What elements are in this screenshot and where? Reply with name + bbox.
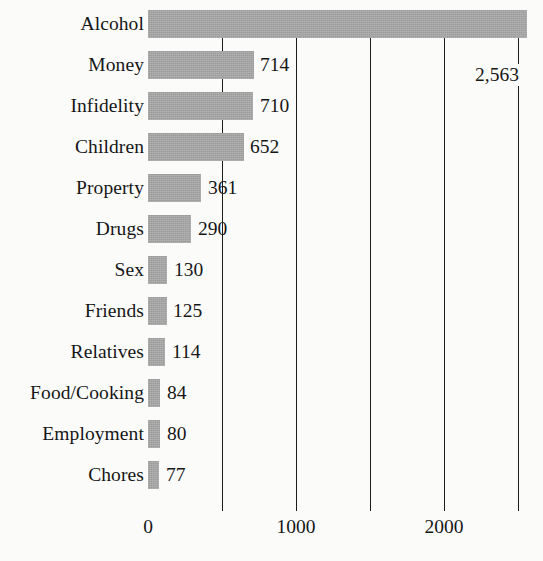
value-label-friends: 125 xyxy=(173,300,202,322)
category-label-employment: Employment xyxy=(42,423,144,445)
x-tick-label-0: 0 xyxy=(143,516,153,538)
category-label-sex: Sex xyxy=(114,259,144,281)
value-label-relatives: 114 xyxy=(172,341,201,363)
bar-chores[interactable] xyxy=(148,461,159,489)
x-tick-label-1000: 1000 xyxy=(277,516,316,538)
value-label-food-cooking: 84 xyxy=(167,382,187,404)
bar-row-sex: Sex 130 xyxy=(0,249,543,290)
category-label-infidelity: Infidelity xyxy=(70,95,144,117)
bar-row-employment: Employment 80 xyxy=(0,413,543,454)
bar-row-friends: Friends 125 xyxy=(0,290,543,331)
bar-row-drugs: Drugs 290 xyxy=(0,208,543,249)
bar-row-money: Money 714 xyxy=(0,44,543,85)
category-label-chores: Chores xyxy=(88,464,144,486)
category-label-relatives: Relatives xyxy=(71,341,144,363)
x-tick-label-2000: 2000 xyxy=(425,516,464,538)
category-label-money: Money xyxy=(88,54,144,76)
category-label-friends: Friends xyxy=(85,300,144,322)
value-label-children: 652 xyxy=(250,136,279,158)
value-label-employment: 80 xyxy=(167,423,187,445)
bar-row-children: Children 652 xyxy=(0,126,543,167)
value-label-alcohol: 2,563 xyxy=(474,64,520,86)
category-label-food-cooking: Food/Cooking xyxy=(30,382,144,404)
bar-sex[interactable] xyxy=(148,256,167,284)
value-label-chores: 77 xyxy=(166,464,186,486)
bar-friends[interactable] xyxy=(148,297,167,325)
x-axis-tick-labels: 0 1000 2000 xyxy=(0,516,543,556)
category-label-alcohol: Alcohol xyxy=(80,13,144,35)
bar-alcohol[interactable] xyxy=(148,10,527,38)
bar-property[interactable] xyxy=(148,174,201,202)
category-label-property: Property xyxy=(76,177,144,199)
bar-row-relatives: Relatives 114 xyxy=(0,331,543,372)
value-label-property: 361 xyxy=(208,177,237,199)
bar-drugs[interactable] xyxy=(148,215,191,243)
category-label-children: Children xyxy=(75,136,144,158)
bar-row-alcohol: Alcohol 2,563 xyxy=(0,3,543,44)
bar-infidelity[interactable] xyxy=(148,92,253,120)
bar-row-chores: Chores 77 xyxy=(0,454,543,495)
bar-row-infidelity: Infidelity 710 xyxy=(0,85,543,126)
value-label-infidelity: 710 xyxy=(260,95,289,117)
bar-relatives[interactable] xyxy=(148,338,165,366)
bar-money[interactable] xyxy=(148,51,254,79)
bar-row-food-cooking: Food/Cooking 84 xyxy=(0,372,543,413)
bar-children[interactable] xyxy=(148,133,244,161)
bar-food-cooking[interactable] xyxy=(148,379,160,407)
value-label-drugs: 290 xyxy=(198,218,227,240)
plot-area: Alcohol 2,563 Money 714 Infidelity 710 C… xyxy=(0,0,543,561)
bar-chart: Alcohol 2,563 Money 714 Infidelity 710 C… xyxy=(0,0,543,561)
bar-employment[interactable] xyxy=(148,420,160,448)
bar-rows: Alcohol 2,563 Money 714 Infidelity 710 C… xyxy=(0,0,543,561)
value-label-money: 714 xyxy=(260,54,289,76)
category-label-drugs: Drugs xyxy=(96,218,144,240)
value-label-sex: 130 xyxy=(174,259,203,281)
bar-row-property: Property 361 xyxy=(0,167,543,208)
